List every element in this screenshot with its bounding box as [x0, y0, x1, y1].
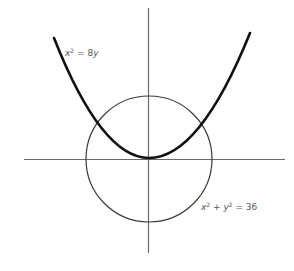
parabola-circle-diagram: x2 = 8y x2 + y2 = 36 [0, 0, 294, 271]
parabola-equation-label: x2 = 8y [64, 47, 99, 59]
circle-equation-label: x2 + y2 = 36 [200, 201, 258, 213]
